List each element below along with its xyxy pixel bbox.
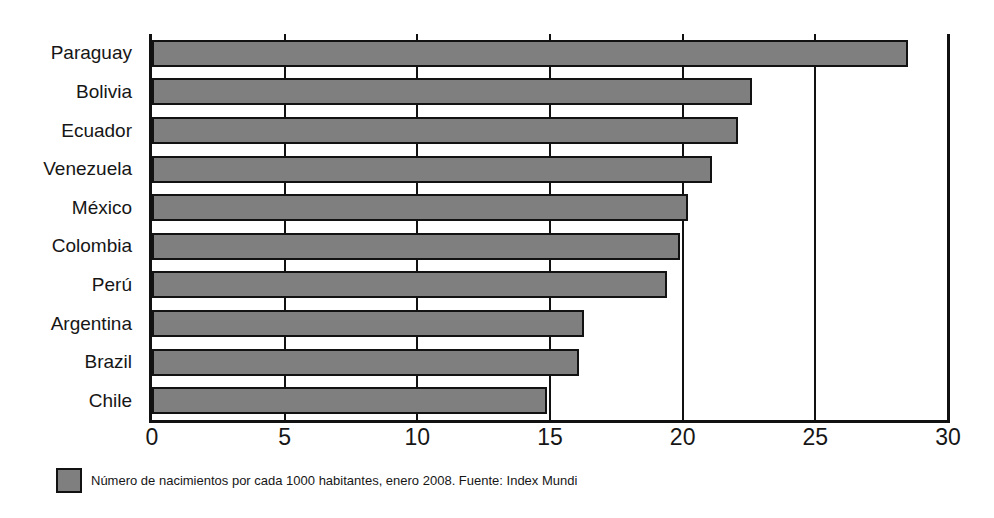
category-label: Argentina [51, 314, 132, 333]
legend-caption: Número de nacimientos por cada 1000 habi… [91, 473, 577, 489]
bar [152, 78, 752, 105]
category-label: Bolivia [76, 82, 132, 101]
category-label: Colombia [52, 236, 132, 255]
category-label: Brazil [84, 352, 132, 371]
category-label: Perú [92, 275, 132, 294]
bar-chart: ParaguayBoliviaEcuadorVenezuelaMéxicoCol… [0, 0, 994, 518]
x-tick-label: 25 [803, 424, 829, 450]
bar [152, 349, 579, 376]
category-axis-labels: ParaguayBoliviaEcuadorVenezuelaMéxicoCol… [0, 34, 142, 420]
bar-series [152, 34, 948, 420]
x-axis-tick-labels: 051015202530 [152, 424, 952, 458]
plot-area [152, 34, 948, 420]
category-label: Venezuela [43, 159, 132, 178]
bar [152, 233, 680, 260]
category-label: Chile [89, 391, 132, 410]
x-axis-line [149, 420, 948, 423]
x-tick-label: 30 [935, 424, 961, 450]
x-tick-label: 5 [278, 424, 291, 450]
x-tick-label: 15 [537, 424, 563, 450]
legend-swatch-icon [56, 468, 82, 493]
x-tick-label: 10 [405, 424, 431, 450]
x-tick-label: 0 [146, 424, 159, 450]
bar [152, 271, 667, 298]
bar [152, 194, 688, 221]
bar [152, 310, 584, 337]
category-label: México [72, 198, 132, 217]
bar [152, 387, 547, 414]
category-label: Ecuador [61, 121, 132, 140]
x-tick-label: 20 [670, 424, 696, 450]
bar [152, 40, 908, 67]
category-label: Paraguay [51, 43, 132, 62]
legend: Número de nacimientos por cada 1000 habi… [56, 468, 577, 493]
bar [152, 117, 738, 144]
bar [152, 156, 712, 183]
